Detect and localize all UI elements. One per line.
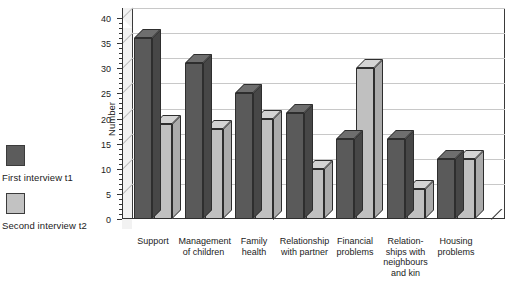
x-axis-label: Support [128, 236, 178, 247]
x-axis-label-line: Management [179, 236, 229, 247]
x-axis-label-line: problems [330, 247, 380, 258]
y-axis-label: Number [106, 102, 117, 136]
bar-chart: First interview t1 Second interview t2 0… [0, 0, 515, 285]
y-axis-tick-label: 0 [106, 215, 111, 225]
x-axis-label-line: of children [179, 247, 229, 258]
legend-swatch-first-interview [6, 145, 25, 166]
x-axis-label-line: health [229, 247, 279, 258]
y-axis-tick-label: 5 [106, 190, 111, 200]
bar-side-face [455, 150, 464, 219]
y-axis-tick-label: 40 [101, 14, 111, 24]
x-axis-label-line: and kin [381, 268, 431, 279]
bar-side-face [304, 104, 313, 219]
bar-first-interview [134, 38, 152, 219]
bar-front-face [134, 38, 152, 219]
plot-area: 0510152025303540 Number [122, 8, 505, 229]
bar-side-face [475, 150, 484, 219]
bar-side-face [405, 130, 414, 219]
x-axis-label: Relationshipwith partner [280, 236, 330, 257]
x-axis-label: Familyhealth [229, 236, 279, 257]
legend-swatch-second-interview [6, 193, 25, 214]
x-axis-label: Housingproblems [431, 236, 481, 257]
y-axis-tick-label: 15 [101, 140, 111, 150]
bar-first-interview [336, 139, 354, 219]
x-axis-label-line: Relation- [381, 236, 431, 247]
floor-corner-right [491, 209, 507, 225]
x-axis-label-line: Support [128, 236, 178, 247]
x-axis-label-line: ships with [381, 247, 431, 258]
bar-side-face [172, 115, 181, 219]
x-axis-label-line: Family [229, 236, 279, 247]
bar-first-interview [286, 113, 304, 219]
x-axis-label: Relation-ships withneighboursand kin [381, 236, 431, 278]
bar-side-face [253, 84, 262, 219]
y-axis-tick-label: 35 [101, 39, 111, 49]
y-axis-line [122, 8, 123, 219]
gridline [132, 33, 505, 34]
bar-side-face [324, 160, 333, 219]
bar-first-interview [185, 63, 203, 219]
bar-side-face [374, 59, 383, 219]
bar-side-face [223, 120, 232, 219]
bar-front-face [336, 139, 354, 219]
bar-first-interview [387, 139, 405, 219]
x-axis-label-line: with partner [280, 247, 330, 258]
bar-front-face [437, 159, 455, 219]
x-axis-label-line: problems [431, 247, 481, 258]
bar-side-face [203, 54, 212, 219]
x-axis-label-line: neighbours [381, 257, 431, 268]
bar-front-face [286, 113, 304, 219]
bar-front-face [185, 63, 203, 219]
x-axis-label-line: Relationship [280, 236, 330, 247]
y-axis-tick-label: 10 [101, 165, 111, 175]
bar-front-face [235, 93, 253, 219]
bar-side-face [152, 29, 161, 219]
x-axis-label-line: Financial [330, 236, 380, 247]
legend-item-second-interview: Second interview t2 [0, 193, 105, 241]
legend-label-second-interview: Second interview t2 [2, 220, 87, 231]
x-axis-label-line: Housing [431, 236, 481, 247]
legend-item-first-interview: First interview t1 [0, 145, 105, 193]
y-axis-tick-label: 30 [101, 64, 111, 74]
x-axis-label: Managementof children [179, 236, 229, 257]
gridline [132, 8, 505, 9]
y-axis-tick-label: 25 [101, 89, 111, 99]
legend-label-first-interview: First interview t1 [2, 172, 73, 183]
bar-side-face [354, 130, 363, 219]
bar-side-face [273, 110, 282, 220]
bar-first-interview [437, 159, 455, 219]
bar-front-face [387, 139, 405, 219]
bar-first-interview [235, 93, 253, 219]
chart-legend: First interview t1 Second interview t2 [0, 145, 105, 241]
x-axis-label: Financialproblems [330, 236, 380, 257]
